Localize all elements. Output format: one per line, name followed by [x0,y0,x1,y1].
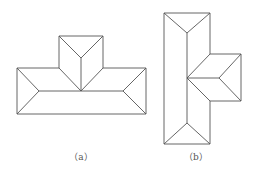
figure-a [17,36,146,114]
figure-a-hip [123,91,146,114]
figure-a-hip [81,36,103,58]
figure-a-hip [59,36,81,58]
figure-a-outline [17,36,146,114]
figure-a-hip [17,91,39,114]
figure-a-label: （a） [69,152,92,162]
figure-b-outline [164,13,241,144]
figure-b [164,13,241,144]
figure-b-valley [187,78,210,101]
figure-a-hip [17,68,39,91]
figure-b-hip [164,123,187,144]
figure-a-valley [59,68,81,91]
figure-b-hip [219,54,241,78]
figure-b-hip [187,123,210,144]
roof-plan-diagram: （a） （b） [0,0,262,179]
figure-b-hip [187,13,210,33]
figure-b-label: （b） [184,152,208,162]
figure-b-hip [219,78,241,101]
figure-b-valley [187,54,210,78]
figure-b-hip [164,13,187,33]
figure-a-valley [81,68,103,91]
figure-a-hip [123,68,146,91]
